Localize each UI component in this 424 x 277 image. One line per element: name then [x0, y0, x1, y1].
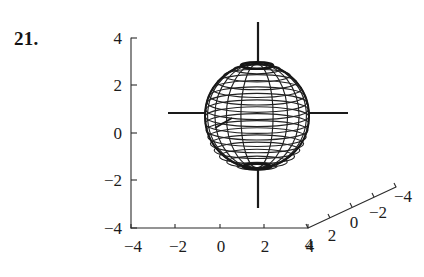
- y-tick-label-2: 2: [328, 226, 337, 245]
- x-axis-tick-labels: −4 −2 0 2 4: [124, 237, 315, 256]
- z-tick-label-0: 0: [114, 124, 123, 143]
- figure-root: 21.: [0, 0, 424, 277]
- x-tick-label-2: 2: [261, 237, 270, 256]
- x-tick-label-0: 0: [217, 237, 226, 256]
- x-tick-label-minus-2: −2: [169, 237, 187, 256]
- y-tick-0: [350, 203, 352, 207]
- z-axis-ticks: [131, 38, 137, 228]
- three-d-plot: 4 2 0 −2 −4 −4 −2 0 2 4 4 2 0 −2 −4: [0, 0, 424, 277]
- wireframe-sphere: [205, 62, 309, 170]
- y-tick-m2: [372, 193, 374, 197]
- z-tick-label-minus-2: −2: [104, 171, 122, 190]
- y-tick-label-minus-4: −4: [394, 187, 413, 206]
- x-axis-ticks: [131, 224, 308, 228]
- y-tick-2: [328, 214, 330, 218]
- y-tick-label-4: 4: [305, 235, 314, 254]
- x-tick-label-minus-4: −4: [124, 237, 143, 256]
- y-tick-label-minus-2: −2: [369, 203, 387, 222]
- z-tick-label-2: 2: [114, 76, 123, 95]
- z-tick-label-4: 4: [114, 29, 123, 48]
- z-tick-label-minus-4: −4: [104, 219, 123, 238]
- z-axis-tick-labels: 4 2 0 −2 −4: [104, 29, 123, 238]
- y-tick-label-0: 0: [350, 213, 359, 232]
- y-axis-tick-labels: 4 2 0 −2 −4: [305, 187, 413, 254]
